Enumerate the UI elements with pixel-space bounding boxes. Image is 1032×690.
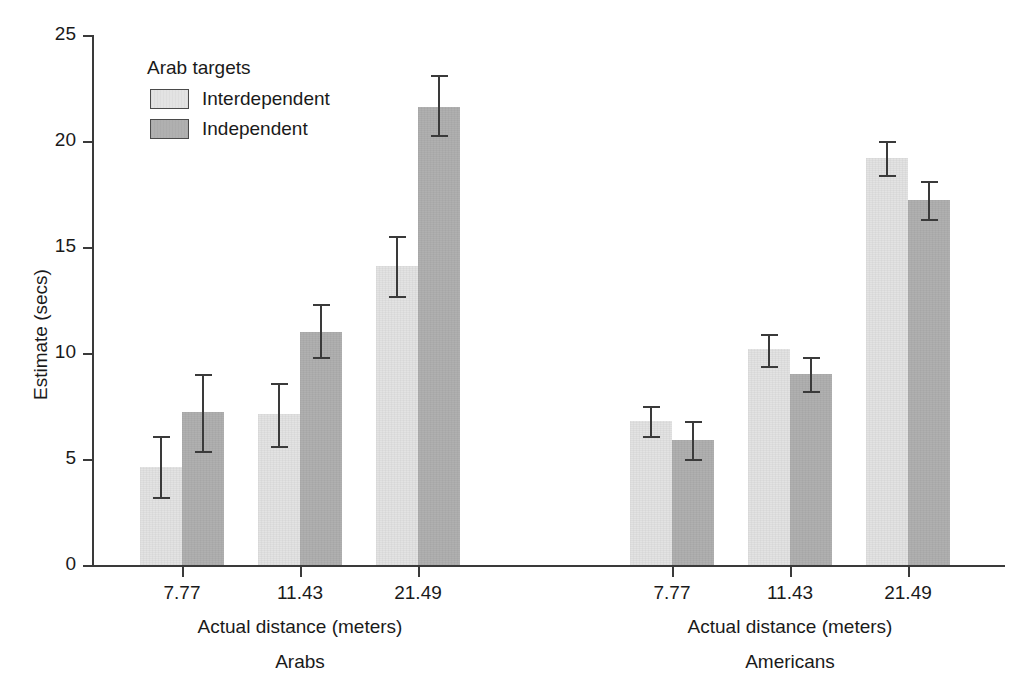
error-bar-cap-upper <box>153 436 170 438</box>
error-bar-cap-lower <box>271 446 288 448</box>
y-tick-label: 25 <box>36 23 76 45</box>
error-bar-cap-upper <box>313 304 330 306</box>
x-tick <box>418 567 420 577</box>
y-tick-label: 15 <box>36 235 76 257</box>
error-bar-cap-upper <box>195 374 212 376</box>
y-tick <box>83 141 92 143</box>
error-bar-cap-upper <box>921 181 938 183</box>
error-bar-cap-lower <box>761 366 778 368</box>
legend-swatch-independent <box>150 119 189 139</box>
x-tick-label: 7.77 <box>137 582 227 604</box>
bar-americans-11.43-light <box>748 349 790 565</box>
y-tick <box>83 459 92 461</box>
error-bar-cap-upper <box>431 75 448 77</box>
bar-americans-21.49-light <box>866 158 908 565</box>
error-bar-cap-lower <box>431 135 448 137</box>
bar-arabs-11.43-dark <box>300 332 342 565</box>
error-bar-stem <box>438 75 440 134</box>
y-tick <box>83 35 92 37</box>
error-bar-cap-upper <box>879 141 896 143</box>
x-axis-baseline <box>92 565 1005 567</box>
x-tick <box>300 567 302 577</box>
error-bar-cap-upper <box>761 334 778 336</box>
panel-name: Arabs <box>140 651 460 673</box>
y-tick-label: 0 <box>36 553 76 575</box>
bar-americans-21.49-dark <box>908 200 950 565</box>
legend-label: Independent <box>202 118 308 140</box>
x-tick-label: 11.43 <box>745 582 835 604</box>
error-bar-cap-lower <box>153 497 170 499</box>
x-tick-label: 21.49 <box>373 582 463 604</box>
y-axis-title: Estimate (secs) <box>30 269 52 400</box>
y-tick-label: 20 <box>36 129 76 151</box>
error-bar-cap-upper <box>685 421 702 423</box>
x-tick-label: 7.77 <box>627 582 717 604</box>
error-bar-cap-lower <box>643 436 660 438</box>
x-tick-label: 21.49 <box>863 582 953 604</box>
legend-label: Interdependent <box>202 88 330 110</box>
y-axis-line <box>92 35 94 567</box>
y-tick <box>83 353 92 355</box>
y-tick <box>83 247 92 249</box>
error-bar-stem <box>768 334 770 366</box>
panel-name: Americans <box>630 651 950 673</box>
error-bar-cap-upper <box>271 383 288 385</box>
x-tick <box>672 567 674 577</box>
error-bar-stem <box>160 436 162 497</box>
error-bar-cap-upper <box>803 357 820 359</box>
grouped-bar-chart: 0510152025Estimate (secs)7.7711.4321.49A… <box>0 0 1032 690</box>
x-tick <box>790 567 792 577</box>
x-tick <box>182 567 184 577</box>
x-tick-label: 11.43 <box>255 582 345 604</box>
error-bar-stem <box>810 357 812 391</box>
x-tick <box>908 567 910 577</box>
bar-arabs-21.49-light <box>376 266 418 565</box>
error-bar-stem <box>692 421 694 459</box>
error-bar-cap-lower <box>389 296 406 298</box>
bar-americans-7.77-light <box>630 421 672 565</box>
error-bar-cap-lower <box>803 391 820 393</box>
error-bar-cap-upper <box>643 406 660 408</box>
error-bar-stem <box>886 141 888 175</box>
error-bar-cap-lower <box>879 175 896 177</box>
error-bar-cap-lower <box>685 459 702 461</box>
error-bar-stem <box>320 304 322 357</box>
y-tick-label: 5 <box>36 447 76 469</box>
error-bar-stem <box>650 406 652 436</box>
legend-row-independent: Independent <box>150 118 308 140</box>
error-bar-cap-upper <box>389 236 406 238</box>
legend-row-interdependent: Interdependent <box>150 88 330 110</box>
panel-x-axis-title: Actual distance (meters) <box>140 616 460 638</box>
bar-arabs-21.49-dark <box>418 107 460 565</box>
error-bar-stem <box>202 374 204 450</box>
legend-swatch-interdependent <box>150 89 189 109</box>
error-bar-cap-lower <box>195 451 212 453</box>
legend-title: Arab targets <box>147 57 251 79</box>
error-bar-stem <box>396 236 398 295</box>
error-bar-cap-lower <box>921 219 938 221</box>
panel-x-axis-title: Actual distance (meters) <box>630 616 950 638</box>
bar-americans-11.43-dark <box>790 374 832 565</box>
y-tick <box>83 565 92 567</box>
error-bar-stem <box>928 181 930 219</box>
error-bar-stem <box>278 383 280 447</box>
error-bar-cap-lower <box>313 357 330 359</box>
